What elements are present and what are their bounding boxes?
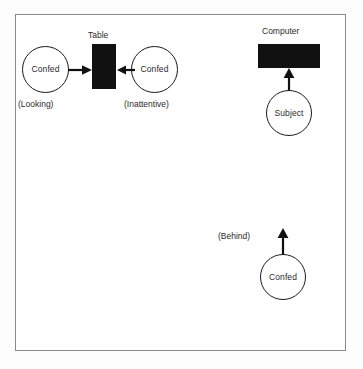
arrow-subject-to-computer-icon [281, 68, 297, 92]
actor-confederate-behind[interactable]: Confed [260, 254, 306, 300]
actor-subject-label: Subject [274, 109, 303, 118]
caption-looking: (Looking) [18, 100, 53, 109]
actor-confederate-looking-label: Confed [31, 65, 59, 74]
arrow-behind-to-subject-icon [275, 228, 291, 256]
actor-confederate-inattentive-label: Confed [140, 65, 168, 74]
actor-subject[interactable]: Subject [266, 90, 312, 136]
actor-confederate-behind-label: Confed [269, 273, 297, 282]
actor-confederate-looking[interactable]: Confed [22, 46, 69, 93]
computer-rect [258, 44, 320, 68]
arrow-looking-to-table-icon [68, 62, 94, 78]
caption-behind: (Behind) [218, 232, 250, 241]
arrow-inattentive-to-table-icon [117, 62, 135, 78]
caption-inattentive: (Inattentive) [124, 100, 169, 109]
table-rect [92, 44, 116, 89]
computer-title: Computer [262, 27, 299, 36]
table-title: Table [88, 31, 108, 40]
diagram-canvas: Table Confed (Looking) Confed (Inattenti… [0, 0, 363, 369]
actor-confederate-inattentive[interactable]: Confed [131, 46, 178, 93]
